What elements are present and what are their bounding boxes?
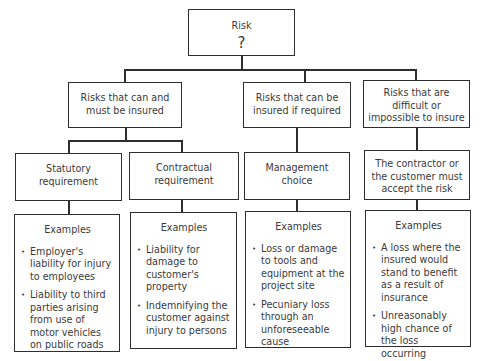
connector-level2-bus [124, 69, 416, 71]
root-title: Risk [189, 10, 294, 33]
example-item: A loss where the insured would stand to … [372, 242, 465, 305]
examples-list: A loss where the insured would stand to … [372, 242, 465, 361]
connector-sub-1-examples [68, 200, 70, 214]
question-mark-symbol: ? [189, 34, 294, 52]
sub-management-choice: Management choice [244, 152, 350, 200]
connector-cat-3-down [416, 128, 418, 150]
examples-list: Liability for damage to customer's prope… [137, 244, 231, 338]
example-item: Liability to third parties arising from … [21, 289, 114, 352]
sub-label: Management choice [245, 153, 349, 187]
category-label: Risks that can and must be insured [69, 83, 181, 117]
sub-label: Contractual requirement [130, 153, 238, 187]
connector-level3-bus-1 [68, 140, 181, 142]
connector-to-cat-1 [124, 69, 126, 83]
root-node-risk: Risk ? [188, 9, 295, 56]
connector-root-down [241, 55, 243, 70]
connector-to-sub-1 [68, 140, 70, 153]
examples-list: Employer's liability for injury to emplo… [21, 246, 114, 352]
sub-accept-risk: The contractor or the customer must acce… [364, 150, 470, 200]
example-item: Employer's liability for injury to emplo… [21, 246, 114, 284]
category-insured-if-required: Risks that can be insured if required [243, 82, 351, 128]
examples-list: Loss or damage to tools and equipment at… [252, 243, 345, 349]
sub-label: Statutory requirement [16, 154, 121, 188]
category-must-be-insured: Risks that can and must be insured [68, 82, 182, 128]
sub-contractual-requirement: Contractual requirement [129, 152, 239, 200]
examples-title: Examples [372, 220, 465, 233]
category-label: Risks that are difficult or impossible t… [364, 81, 469, 125]
sub-statutory-requirement: Statutory requirement [15, 153, 122, 201]
examples-accept-risk: Examples A loss where the insured would … [365, 210, 471, 347]
connector-to-cat-2 [304, 69, 306, 83]
sub-label: The contractor or the customer must acce… [365, 151, 469, 196]
example-item: Pecuniary loss through an unforeseeable … [252, 299, 345, 349]
example-item: Liability for damage to customer's prope… [137, 244, 231, 294]
examples-title: Examples [21, 224, 114, 237]
category-difficult-to-insure: Risks that are difficult or impossible t… [363, 80, 470, 128]
example-item: Loss or damage to tools and equipment at… [252, 243, 345, 293]
example-item: Indemnifying the customer against injury… [137, 300, 231, 338]
connector-cat-1-down [125, 127, 127, 140]
example-item: Unreasonably high chance of the loss occ… [372, 310, 465, 360]
examples-title: Examples [137, 222, 231, 235]
examples-management: Examples Loss or damage to tools and equ… [245, 211, 351, 348]
connector-cat-2-down [296, 128, 298, 152]
examples-statutory: Examples Employer's liability for injury… [14, 214, 120, 352]
category-label: Risks that can be insured if required [244, 83, 350, 117]
examples-title: Examples [252, 221, 345, 234]
examples-contractual: Examples Liability for damage to custome… [130, 212, 237, 349]
